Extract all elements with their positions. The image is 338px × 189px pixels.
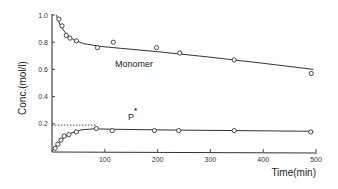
data-point-monomer <box>111 40 115 44</box>
data-point-monomer <box>178 51 182 55</box>
data-point-monomer <box>60 24 64 28</box>
y-axis-title: Conc.(mol/l) <box>17 61 28 115</box>
data-point-p-star <box>232 129 236 133</box>
data-point-monomer <box>64 33 68 37</box>
x-tick-label: 200 <box>152 156 164 163</box>
data-point-p-star <box>67 133 71 137</box>
data-point-p-star <box>59 138 63 142</box>
y-tick-label: 0.6 <box>38 66 48 73</box>
axes <box>52 14 317 153</box>
y-tick-label: 0.4 <box>38 93 48 100</box>
data-point-monomer <box>74 39 78 43</box>
x-axis-line <box>52 152 317 153</box>
data-point-p-star <box>56 142 60 146</box>
y-tick-label: 0.8 <box>38 39 48 46</box>
data-point-p-star <box>53 146 57 150</box>
data-point-p-star <box>62 134 66 138</box>
x-axis-title: Time(min) <box>271 167 316 178</box>
chart: 100200300400500 0.20.40.60.81.0 Conc.(mo… <box>0 0 338 189</box>
data-point-monomer <box>309 71 313 75</box>
series-label-p-star-superscript: * <box>134 106 138 115</box>
x-tick-label: 300 <box>205 156 217 163</box>
data-point-p-star <box>74 130 78 134</box>
data-point-p-star <box>309 130 313 134</box>
data-point-p-star <box>110 129 114 133</box>
data-point-monomer <box>57 17 61 21</box>
data-point-p-star <box>94 126 98 130</box>
y-tick-label: 0.2 <box>38 120 48 127</box>
y-tick-label: 1.0 <box>38 12 48 19</box>
data-point-monomer <box>95 46 99 50</box>
data-point-p-star <box>177 129 181 133</box>
x-tick-label: 100 <box>99 156 111 163</box>
data-point-p-star <box>152 129 156 133</box>
fit-curve-p-star <box>52 129 313 151</box>
data-point-monomer <box>68 36 72 40</box>
fit-curves <box>52 15 313 151</box>
data-point-monomer <box>154 46 158 50</box>
x-tick-label: 500 <box>310 156 322 163</box>
fit-curve-monomer <box>56 15 313 69</box>
series-label-monomer: Monomer <box>115 59 153 69</box>
data-point-monomer <box>232 58 236 62</box>
x-ticks: 100200300400500 <box>99 149 322 163</box>
x-tick-label: 400 <box>257 156 269 163</box>
